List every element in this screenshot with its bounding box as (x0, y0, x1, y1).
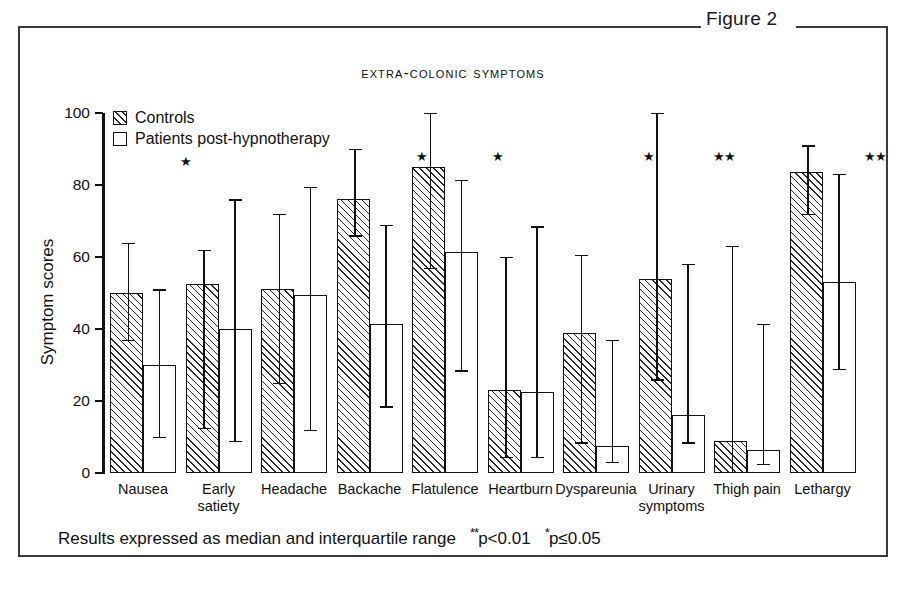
errorbar-stem (763, 324, 764, 464)
errorbar-cap-upper (802, 145, 815, 146)
significance-mark-nausea: ★ (168, 155, 202, 168)
errorbar-stem (279, 214, 280, 383)
errorbar-cap-lower (424, 268, 437, 269)
errorbar-cap-lower (455, 370, 468, 371)
errorbar-stem (430, 113, 431, 268)
errorbar-cap-upper (229, 199, 242, 200)
legend-item-patients: Patients post-hypnotherapy (113, 129, 330, 149)
errorbar-cap-upper (726, 246, 739, 247)
errorbar-cap-upper (500, 257, 513, 258)
errorbar-stem (310, 187, 311, 430)
errorbar-stem (234, 199, 235, 440)
open-swatch-icon (113, 132, 127, 146)
bar-heartburn-controls (488, 390, 521, 473)
bar-headache-controls (261, 289, 294, 473)
significance-mark-lethargy: ★★ (858, 150, 892, 163)
errorbar-cap-upper (198, 250, 211, 251)
errorbar-stem (612, 340, 613, 462)
figure-footnote: Results expressed as median and interqua… (58, 525, 601, 549)
errorbar-cap-lower (651, 379, 664, 380)
bar-urinary-symptoms-controls (639, 279, 672, 473)
significance-mark-urinary-symptoms: ★★ (707, 150, 741, 163)
bar-dyspareunia-controls (563, 333, 596, 473)
footnote-sig-double-p: p<0.01 (478, 529, 530, 548)
significance-mark-backache: ★ (405, 150, 439, 163)
errorbar-cap-upper (531, 226, 544, 227)
bar-backache-controls (337, 199, 370, 473)
bar-thigh-pain-controls (714, 441, 747, 473)
errorbar-stem (128, 243, 129, 340)
legend-label-patients: Patients post-hypnotherapy (135, 130, 330, 148)
errorbar-stem (505, 257, 506, 457)
significance-mark-dyspareunia: ★ (631, 150, 665, 163)
errorbar-cap-upper (380, 225, 393, 226)
errorbar-stem (807, 145, 808, 213)
y-tick-100 (95, 112, 103, 114)
errorbar-cap-lower (757, 464, 770, 465)
errorbar-cap-lower (349, 235, 362, 236)
errorbar-cap-upper (304, 187, 317, 188)
errorbar-cap-lower (304, 430, 317, 431)
errorbar-cap-upper (682, 264, 695, 265)
errorbar-stem (536, 226, 537, 456)
y-tick-80 (95, 184, 103, 186)
y-tick-label-80: 80 (46, 176, 90, 194)
footnote-main-text: Results expressed as median and interqua… (58, 529, 456, 548)
y-tick-label-60: 60 (46, 248, 90, 266)
errorbar-stem (461, 180, 462, 371)
errorbar-stem (838, 174, 839, 368)
errorbar-cap-upper (153, 289, 166, 290)
y-tick-label-100: 100 (46, 104, 90, 122)
errorbar-cap-upper (122, 243, 135, 244)
figure-container: Figure 2 Extra-colonic symptoms Symptom … (0, 0, 906, 590)
errorbar-cap-upper (455, 180, 468, 181)
errorbar-cap-lower (682, 442, 695, 443)
errorbar-stem (732, 246, 733, 473)
errorbar-cap-upper (273, 214, 286, 215)
significance-mark-flatulence: ★ (480, 150, 514, 163)
hatched-swatch-icon (113, 111, 127, 125)
errorbar-stem (687, 264, 688, 442)
errorbar-cap-lower (380, 406, 393, 407)
footnote-sig-single-p: p≤0.05 (549, 529, 601, 548)
errorbar-cap-lower (575, 442, 588, 443)
footnote-sig-double: ** (470, 525, 478, 540)
errorbar-stem (385, 225, 386, 407)
errorbar-cap-upper (833, 174, 846, 175)
y-axis-label: Symptom scores (38, 202, 58, 402)
errorbar-cap-lower (802, 214, 815, 215)
y-tick-label-20: 20 (46, 392, 90, 410)
errorbar-cap-lower (606, 462, 619, 463)
errorbar-cap-upper (757, 324, 770, 325)
legend-item-controls: Controls (113, 108, 330, 128)
bar-early-satiety-controls (186, 284, 219, 473)
y-tick-20 (95, 400, 103, 402)
bar-lethargy-controls (790, 172, 823, 473)
errorbar-cap-lower (531, 457, 544, 458)
errorbar-cap-upper (575, 255, 588, 256)
y-tick-40 (95, 328, 103, 330)
legend-label-controls: Controls (135, 109, 195, 127)
errorbar-cap-upper (349, 149, 362, 150)
errorbar-cap-lower (500, 457, 513, 458)
y-tick-60 (95, 256, 103, 258)
y-tick-0 (95, 472, 103, 474)
errorbar-cap-lower (229, 441, 242, 442)
errorbar-cap-upper (606, 340, 619, 341)
x-label-lethargy: Lethargy (776, 481, 870, 498)
errorbar-cap-lower (273, 383, 286, 384)
bar-flatulence-controls (412, 167, 445, 473)
errorbar-cap-lower (198, 428, 211, 429)
chart-legend: Controls Patients post-hypnotherapy (113, 108, 330, 150)
errorbar-stem (203, 250, 204, 428)
errorbar-cap-upper (651, 113, 664, 114)
errorbar-stem (581, 255, 582, 442)
errorbar-cap-lower (153, 437, 166, 438)
y-tick-label-0: 0 (46, 464, 90, 482)
errorbar-cap-lower (122, 340, 135, 341)
errorbar-stem (354, 149, 355, 235)
errorbar-stem (159, 289, 160, 437)
bar-nausea-controls (110, 293, 143, 473)
y-axis-line (102, 113, 105, 474)
y-tick-label-40: 40 (46, 320, 90, 338)
